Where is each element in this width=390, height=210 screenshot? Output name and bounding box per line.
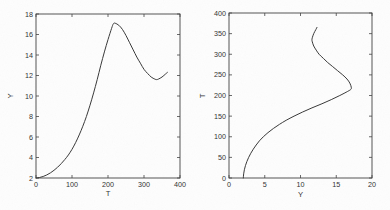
x-ticklabel: 400: [174, 180, 186, 189]
y-ticklabel: 2: [29, 174, 33, 183]
y-ticklabel: 14: [25, 51, 33, 60]
y-ticklabel: 6: [29, 133, 33, 142]
x-ticklabel: 100: [66, 180, 78, 189]
x-ticklabel: 200: [102, 180, 114, 189]
plot-right-axes: 05101520 050100150200250300350400: [214, 9, 376, 189]
x-ticklabel: 0: [227, 180, 231, 189]
x-ticklabel: 10: [297, 180, 305, 189]
data-curve-y-vs-t: [36, 23, 167, 178]
x-ticklabel: 5: [263, 180, 267, 189]
y-axis-title: Y: [6, 93, 15, 98]
y-ticklabel: 250: [214, 70, 226, 79]
y-axis-title: T: [198, 93, 207, 98]
y-ticklabel: 150: [214, 112, 226, 121]
y-ticklabel: 50: [218, 153, 226, 162]
y-ticklabel: 18: [25, 10, 33, 19]
data-curve-t-vs-y: [243, 27, 351, 178]
y-ticklabel: 200: [214, 91, 226, 100]
plot-panel-left: 0100200300400 24681012141618 T Y: [0, 0, 195, 210]
y-ticklabel: 100: [214, 132, 226, 141]
figure-canvas: 0100200300400 24681012141618 T Y 0510152…: [0, 0, 390, 210]
x-ticklabel: 20: [368, 180, 376, 189]
plot-panel-right: 05101520 050100150200250300350400 Y T: [195, 0, 390, 210]
y-ticklabel: 8: [29, 112, 33, 121]
plot-left-axes: 0100200300400 24681012141618: [25, 10, 186, 189]
y-ticklabel: 16: [25, 30, 33, 39]
y-ticklabel: 0: [222, 174, 226, 183]
y-ticklabels: 050100150200250300350400: [214, 9, 226, 183]
plot-left-svg: 0100200300400 24681012141618 T Y: [0, 0, 195, 210]
y-ticklabel: 350: [214, 29, 226, 38]
x-ticklabel: 15: [332, 180, 340, 189]
x-ticklabel: 300: [138, 180, 150, 189]
y-ticklabels: 24681012141618: [25, 10, 33, 183]
y-ticklabel: 12: [25, 71, 33, 80]
y-ticklabel: 10: [25, 92, 33, 101]
x-ticklabels: 0100200300400: [34, 180, 186, 189]
y-ticklabel: 300: [214, 50, 226, 59]
y-ticklabel: 400: [214, 9, 226, 18]
x-axis-title: T: [106, 189, 111, 198]
x-axis-title: Y: [298, 190, 303, 199]
x-ticklabel: 0: [34, 180, 38, 189]
x-ticklabels: 05101520: [227, 180, 376, 189]
y-ticklabel: 4: [29, 153, 33, 162]
plot-right-svg: 05101520 050100150200250300350400 Y T: [195, 0, 390, 210]
